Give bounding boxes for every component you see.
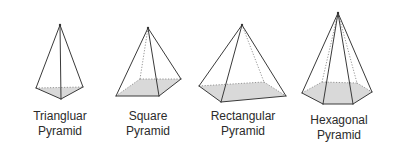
- hexagonal-label-line1: Hexagonal: [289, 113, 389, 128]
- square-label-line2: Pyramid: [98, 124, 198, 139]
- square-label-line1: Square: [98, 109, 198, 124]
- hexagonal-pyramid-shape: [302, 12, 372, 104]
- triangular-base: [36, 87, 83, 99]
- square-base: [116, 79, 181, 96]
- triangular-pyramid-shape: [36, 24, 83, 99]
- triangular-label-line1: Triangluar: [10, 109, 110, 124]
- rectangular-pyramid-label: Rectangular Pyramid: [193, 109, 293, 139]
- hexagonal-label-line2: Pyramid: [289, 128, 389, 143]
- hexagonal-base: [302, 82, 372, 104]
- rectangular-pyramid-shape: [199, 24, 286, 102]
- square-pyramid-shape: [116, 27, 181, 96]
- pyramids-diagram: Triangluar Pyramid Square Pyramid Rectan…: [0, 0, 394, 158]
- rectangular-label-line2: Pyramid: [193, 124, 293, 139]
- triangular-label-line2: Pyramid: [10, 124, 110, 139]
- rectangular-base: [199, 82, 286, 102]
- triangular-pyramid-label: Triangluar Pyramid: [10, 109, 110, 139]
- square-pyramid-label: Square Pyramid: [98, 109, 198, 139]
- hexagonal-pyramid-label: Hexagonal Pyramid: [289, 113, 389, 143]
- rectangular-label-line1: Rectangular: [193, 109, 293, 124]
